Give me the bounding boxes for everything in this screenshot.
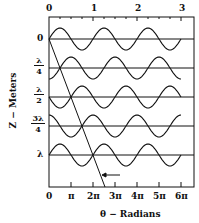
bottom-ticks [71, 182, 181, 187]
bottom-tick-label: 6π [175, 192, 188, 201]
z-label-0: 0 [37, 34, 43, 43]
bottom-tick-label: 2π [87, 192, 100, 201]
y-axis-label: Z − Meters [9, 73, 18, 129]
plot-frame [49, 17, 194, 187]
x-axis-label: θ − Radians [100, 210, 160, 219]
top-ticks [60, 17, 181, 21]
top-tick-label: 0 [46, 4, 52, 13]
arrow-icon [102, 173, 120, 177]
bottom-tick-label: 0 [46, 192, 52, 201]
z-label-3lambda-4: 3λ4 [31, 114, 45, 133]
bottom-tick-label: π [68, 192, 75, 201]
bottom-tick-label: 3π [109, 192, 122, 201]
top-tick-label: 3 [179, 4, 185, 13]
top-tick-label: 2 [135, 4, 141, 13]
z-label-lambda-2: λ2 [34, 85, 44, 104]
z-label-lambda: λ [37, 150, 43, 159]
z-label-lambda-4: λ4 [34, 56, 44, 75]
bottom-tick-label: 4π [131, 192, 144, 201]
wave-diagram [0, 0, 199, 223]
bottom-tick-label: 5π [153, 192, 166, 201]
top-tick-label: 1 [91, 4, 97, 13]
